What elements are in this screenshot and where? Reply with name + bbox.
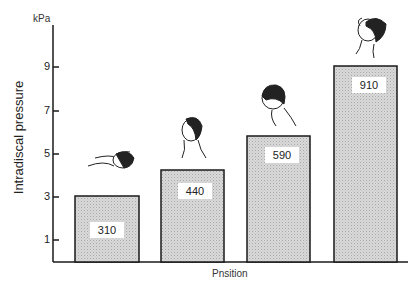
y-tick-9: 9 xyxy=(36,60,50,72)
y-axis-label: Intradiscal pressure xyxy=(11,68,26,208)
bar-3-value-label: 590 xyxy=(265,147,299,163)
bar-4 xyxy=(334,66,397,262)
x-axis-label: Pnsition xyxy=(212,268,248,279)
y-tick-7: 7 xyxy=(36,104,50,116)
y-tick-5: 5 xyxy=(36,147,50,159)
bar-4-value-label: 910 xyxy=(352,77,386,93)
head-extended-icon xyxy=(356,18,386,58)
head-supine-icon xyxy=(88,152,134,168)
y-tick-3: 3 xyxy=(36,190,50,202)
bar-1-value-label: 310 xyxy=(90,222,124,238)
y-ticks xyxy=(53,67,59,240)
y-tick-1: 1 xyxy=(36,233,50,245)
bar-2-value-label: 440 xyxy=(178,183,212,199)
head-flexed-icon xyxy=(262,85,296,126)
head-upright-icon xyxy=(182,118,206,158)
y-axis-unit: kPa xyxy=(33,13,50,24)
chart-canvas xyxy=(0,0,418,287)
